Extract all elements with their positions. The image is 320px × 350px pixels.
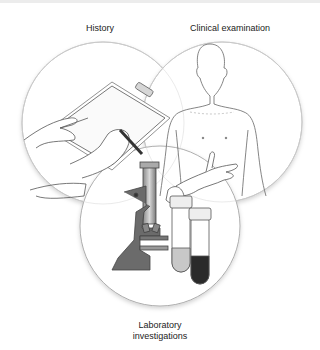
venn-diagram <box>0 0 320 350</box>
